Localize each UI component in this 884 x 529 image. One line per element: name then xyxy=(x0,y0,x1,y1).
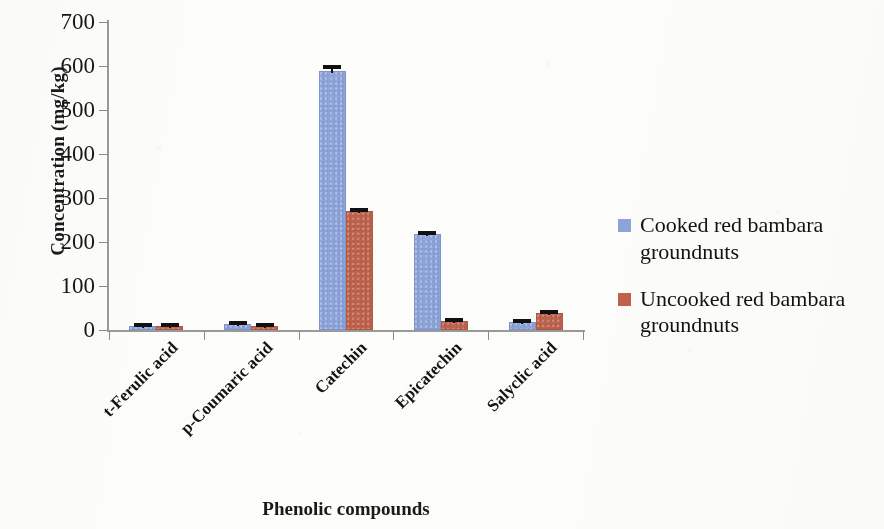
y-axis-tick-label: 300 xyxy=(11,186,95,209)
x-axis-category-label: t-Ferulic acid xyxy=(99,338,182,421)
bar-group xyxy=(393,22,488,330)
y-axis-tick xyxy=(99,110,108,111)
bar[interactable] xyxy=(346,211,373,330)
x-axis-tick xyxy=(488,331,489,340)
legend-label-line: groundnuts xyxy=(640,312,845,339)
chart-legend: Cooked red bambaragroundnutsUncooked red… xyxy=(618,212,880,359)
bar-slot xyxy=(129,22,156,330)
x-axis-category-label: Epicatechin xyxy=(391,338,466,413)
error-bar xyxy=(418,233,436,236)
legend-item[interactable]: Uncooked red bambaragroundnuts xyxy=(618,286,880,340)
error-bar xyxy=(229,323,247,326)
bar-group xyxy=(488,22,583,330)
bar-chart-figure: Concentration (mg/kg) 700600500400300200… xyxy=(0,0,884,529)
error-bar xyxy=(323,67,341,73)
x-axis-category-label: p-Coumaric acid xyxy=(176,338,277,439)
bar-slot xyxy=(414,22,441,330)
y-axis-tick-label: 0 xyxy=(11,318,95,341)
legend-label-line: Uncooked red bambara xyxy=(640,286,845,313)
x-axis-tick xyxy=(299,331,300,340)
bar[interactable] xyxy=(319,71,346,330)
error-bar xyxy=(350,210,368,213)
x-axis-tick xyxy=(204,331,205,340)
x-axis-title: Phenolic compounds xyxy=(109,498,583,520)
y-axis-tick xyxy=(99,286,108,287)
bar[interactable] xyxy=(414,234,441,330)
bar[interactable] xyxy=(536,313,563,330)
legend-item[interactable]: Cooked red bambaragroundnuts xyxy=(618,212,880,266)
x-axis-category-label: Catechin xyxy=(311,338,371,398)
y-axis-tick xyxy=(99,22,108,23)
y-axis-tick-label: 400 xyxy=(11,142,95,165)
y-axis-tick xyxy=(99,242,108,243)
bar-slot xyxy=(509,22,536,330)
bar-slot xyxy=(536,22,563,330)
y-axis-tick-labels: 7006005004003002001000 xyxy=(0,0,95,350)
legend-color-swatch xyxy=(618,293,631,306)
legend-color-swatch xyxy=(618,219,631,232)
y-axis-tick xyxy=(99,66,108,67)
y-axis-tick xyxy=(99,198,108,199)
x-axis-tick xyxy=(583,331,584,340)
x-axis-tick xyxy=(109,331,110,340)
x-axis-line xyxy=(107,330,585,332)
y-axis-tick-label: 700 xyxy=(11,10,95,33)
bar-group xyxy=(109,22,204,330)
legend-label: Cooked red bambaragroundnuts xyxy=(640,212,823,266)
y-axis-tick-label: 100 xyxy=(11,274,95,297)
x-axis-category-label: Salyclic acid xyxy=(483,338,561,416)
error-bar xyxy=(161,325,179,328)
y-axis-tick xyxy=(99,154,108,155)
error-bar xyxy=(134,325,152,328)
error-bar xyxy=(445,320,463,323)
bar-slot xyxy=(346,22,373,330)
bar-slot xyxy=(319,22,346,330)
legend-label-line: groundnuts xyxy=(640,239,823,266)
bar-slot xyxy=(251,22,278,330)
bar-group xyxy=(204,22,299,330)
error-bar xyxy=(256,325,274,328)
legend-label: Uncooked red bambaragroundnuts xyxy=(640,286,845,340)
legend-label-line: Cooked red bambara xyxy=(640,212,823,239)
bar-slot xyxy=(156,22,183,330)
bar-slot xyxy=(224,22,251,330)
y-axis-tick-label: 600 xyxy=(11,54,95,77)
x-axis-tick xyxy=(393,331,394,340)
bar-group xyxy=(299,22,394,330)
bar-slot xyxy=(441,22,468,330)
error-bar xyxy=(513,321,531,324)
y-axis-tick-label: 200 xyxy=(11,230,95,253)
plot-area xyxy=(109,22,583,330)
error-bar xyxy=(540,312,558,315)
y-axis-tick-label: 500 xyxy=(11,98,95,121)
